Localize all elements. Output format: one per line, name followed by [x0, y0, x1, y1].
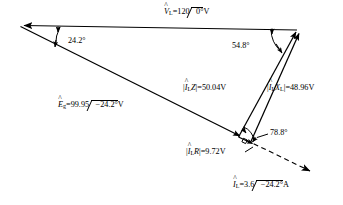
- label-iz-unit: V: [220, 83, 226, 92]
- label-iz-value: 50.04: [202, 83, 220, 92]
- angle-label-24: 24.2°: [68, 36, 86, 45]
- angle-tick-788-left: [243, 129, 247, 134]
- label-v-load: VL=1200°V: [164, 7, 209, 17]
- label-v-load-angle: 0°: [191, 7, 203, 17]
- angle-label-548: 54.8°: [232, 41, 250, 50]
- label-v-load-unit: V: [203, 7, 209, 16]
- label-e-source-angle: −24.2°: [91, 100, 118, 110]
- label-e-source: Eg=99.95−24.2°V: [58, 100, 124, 110]
- label-iz-drop: |ILZ|=50.04V: [183, 84, 226, 93]
- label-e-source-symbol: E: [58, 101, 63, 110]
- label-i-load-angle: −24.2°: [256, 180, 283, 190]
- phasor-diagram-figure: VL=1200°V Eg=99.95−24.2°V |ILZ|=50.04V |…: [0, 0, 343, 205]
- label-ir-current-symbol: I: [188, 148, 191, 157]
- label-e-source-unit: V: [118, 100, 124, 109]
- leader-line-788: [257, 134, 268, 138]
- phasor-line-e-source: [21, 27, 241, 137]
- label-ir-unit: V: [220, 147, 226, 156]
- phasor-diagram-canvas: [0, 0, 343, 205]
- label-ixl-current-symbol: I: [269, 84, 272, 93]
- phasor-line-v-load: [24, 26, 297, 31]
- phasor-line-ir: [239, 137, 253, 144]
- angle-tick-24-bottom: [55, 40, 56, 47]
- label-i-load-symbol: I: [233, 181, 236, 190]
- label-v-load-symbol: V: [164, 8, 169, 17]
- angle-tick-548-bottom: [276, 44, 282, 53]
- label-i-load: IL=3.6−24.2°A: [233, 180, 289, 190]
- label-iz-current-symbol: I: [185, 84, 188, 93]
- label-ixl-drop: |ILXL|=48.96V: [267, 84, 314, 93]
- label-ixl-value: 48.96: [290, 83, 308, 92]
- phasor-line-i-load-dashed: [246, 140, 310, 171]
- label-e-source-magnitude: 99.95: [71, 100, 89, 109]
- label-ixl-unit: V: [308, 83, 314, 92]
- label-ir-value: 9.72: [205, 147, 219, 156]
- label-ir-drop: |ILR|=9.72V: [186, 148, 226, 157]
- leader-line-ir: [245, 147, 253, 152]
- angle-label-788: 78.8°: [270, 128, 288, 137]
- right-angle-marker: [242, 138, 247, 143]
- label-i-load-unit: A: [283, 180, 289, 189]
